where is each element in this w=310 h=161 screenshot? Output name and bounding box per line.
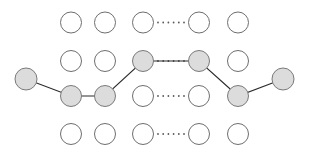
node-r1c2-plain	[95, 12, 116, 33]
ellipsis-dot	[178, 22, 180, 24]
node-end-shaded	[272, 68, 294, 90]
ellipsis-dot	[157, 22, 159, 24]
ellipsis-dot	[183, 95, 185, 97]
node-r2c1-plain	[61, 51, 82, 72]
node-r3c1-shaded	[61, 86, 82, 107]
ellipsis-dot	[162, 133, 164, 135]
ellipsis-dot	[157, 133, 159, 135]
ellipsis-dot	[168, 95, 170, 97]
node-r3c3-plain	[133, 86, 154, 107]
node-r2c5-plain	[228, 51, 249, 72]
node-r4c5-plain	[228, 124, 249, 145]
node-r1c4-plain	[189, 12, 210, 33]
node-r2c4-shaded	[189, 51, 210, 72]
node-r3c5-shaded	[228, 86, 249, 107]
node-r2c2-plain	[95, 51, 116, 72]
ellipsis-row-1	[157, 22, 185, 24]
ellipsis-dot	[168, 22, 170, 24]
ellipsis-dot	[183, 22, 185, 24]
node-r3c4-plain	[189, 86, 210, 107]
trellis-diagram	[0, 0, 310, 161]
ellipsis-dot	[178, 95, 180, 97]
node-r1c3-plain	[133, 12, 154, 33]
ellipsis-dot	[178, 133, 180, 135]
ellipsis-dot	[162, 95, 164, 97]
ellipsis-dot	[173, 22, 175, 24]
ellipsis-dot	[173, 95, 175, 97]
ellipsis-dot	[162, 22, 164, 24]
node-r1c5-plain	[228, 12, 249, 33]
node-r4c4-plain	[189, 124, 210, 145]
node-r3c2-shaded	[95, 86, 116, 107]
node-start-shaded	[15, 68, 37, 90]
node-r4c3-plain	[133, 124, 154, 145]
ellipsis-dot	[157, 95, 159, 97]
ellipsis-row-4	[157, 133, 185, 135]
node-r2c3-shaded	[133, 51, 154, 72]
node-r1c1-plain	[61, 12, 82, 33]
node-r4c2-plain	[95, 124, 116, 145]
diagram-canvas	[0, 0, 310, 161]
ellipsis-row-3	[157, 95, 185, 97]
node-r4c1-plain	[61, 124, 82, 145]
ellipsis-dot	[168, 133, 170, 135]
ellipsis-dot	[173, 133, 175, 135]
ellipsis-dot	[183, 133, 185, 135]
ellipsis-layer	[157, 22, 185, 135]
node-layer	[61, 12, 249, 145]
path-node-layer	[15, 51, 294, 107]
